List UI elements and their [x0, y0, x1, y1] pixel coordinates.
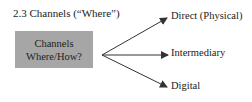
- target-direct-physical: Direct (Physical): [171, 10, 242, 21]
- arrow-to-digital: [102, 55, 167, 87]
- target-intermediary: Intermediary: [171, 47, 225, 58]
- arrow-to-direct: [102, 18, 167, 55]
- target-digital: Digital: [171, 80, 200, 91]
